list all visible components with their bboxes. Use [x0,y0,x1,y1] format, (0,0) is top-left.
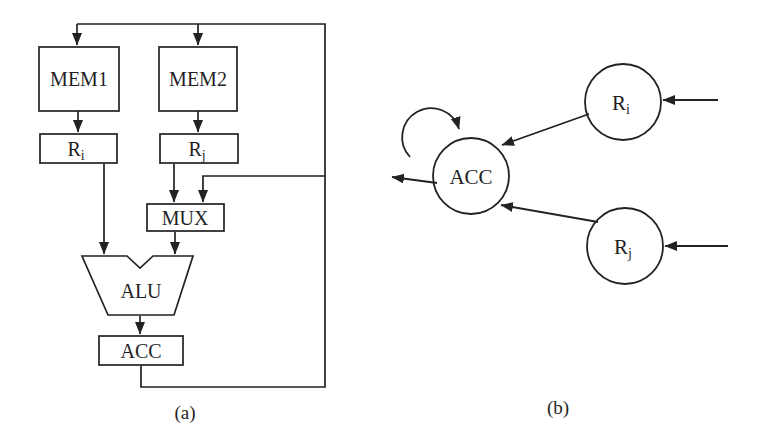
panel-a-caption: (a) [174,402,195,424]
figure-svg: MEM1 MEM2 Ri Rj MUX ALU ACC (a) [0,0,763,445]
acc-label: ACC [120,340,161,362]
feedback-to-mux-arrow [203,176,325,202]
ri-label: Ri [67,138,84,163]
mem2-label: MEM2 [169,68,227,90]
panel-a-labels: MEM1 MEM2 Ri Rj MUX ALU ACC (a) [50,68,227,424]
alu-label: ALU [120,280,162,302]
acc-node-label: ACC [449,165,492,189]
panel-b-dfg [392,64,728,284]
panel-b-labels: ACC Ri Rj (b) [449,91,632,419]
ri-node-label: Ri [612,91,630,117]
panel-b-caption: (b) [547,397,569,419]
architecture-figure: MEM1 MEM2 Ri Rj MUX ALU ACC (a) [0,0,763,445]
mem1-label: MEM1 [50,68,108,90]
acc-self-loop-arrow [402,108,459,157]
rj-to-acc-edge-arrow [501,205,598,222]
mux-label: MUX [162,207,209,229]
rj-label: Rj [188,138,205,163]
ri-to-acc-edge-arrow [502,114,589,145]
rj-node-label: Rj [614,235,632,261]
acc-output-arrow [392,177,437,183]
